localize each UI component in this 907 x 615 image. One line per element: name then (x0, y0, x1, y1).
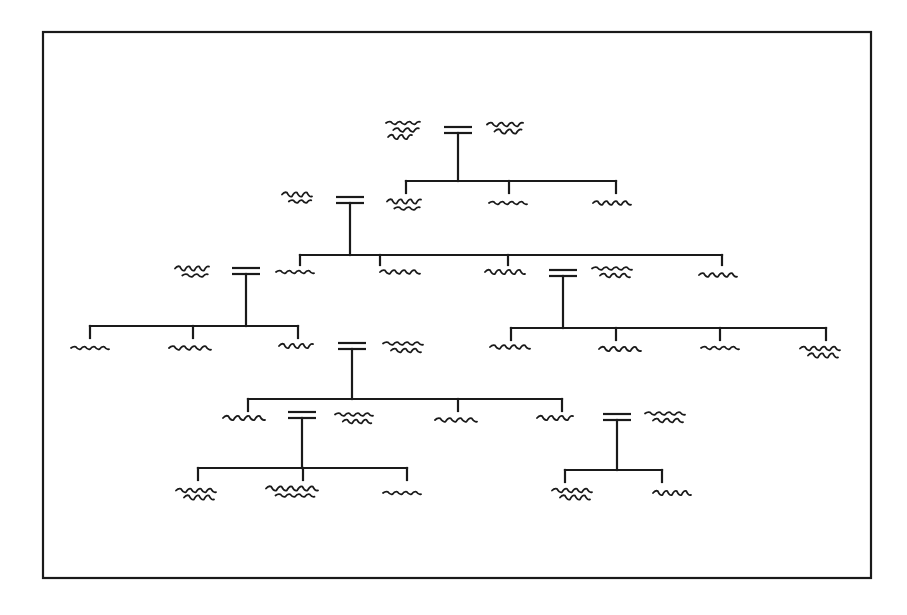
genealogy-diagram: illegible nameillegible nameillegible na… (0, 0, 907, 615)
person-name: illegible name (490, 345, 530, 349)
descent-line (511, 276, 826, 340)
person-name: illegible name (701, 347, 739, 350)
person-name: illegible name (485, 270, 525, 274)
marriage-symbol-icon (232, 268, 260, 274)
person-name: illegible name (383, 492, 421, 495)
person-name: illegible name (279, 344, 313, 348)
person-name: illegible name (699, 273, 737, 277)
person-name: illegible name (386, 122, 420, 140)
person-name: illegible name (489, 202, 527, 205)
descent-line (198, 418, 407, 480)
person-name: illegible name (169, 346, 211, 350)
person-name: illegible name (593, 201, 631, 205)
person-name: illegible name (435, 418, 477, 422)
person-name: illegible name (223, 416, 265, 420)
marriage-symbol-icon (338, 343, 366, 349)
marriage-symbol-icon (336, 197, 364, 203)
person-name: illegible name (176, 489, 216, 500)
person-name: illegible name (71, 347, 109, 350)
person-name: illegible name (592, 267, 632, 277)
person-name: illegible name (335, 413, 373, 423)
descent-line (300, 203, 722, 265)
person-name: illegible name (175, 266, 209, 277)
person-name: illegible name (487, 123, 523, 134)
marriage-symbol-icon (603, 414, 631, 420)
marriage-symbol-icon (444, 127, 472, 133)
person-name: illegible name (800, 347, 840, 358)
descent-line (248, 349, 562, 411)
person-name: illegible name (383, 342, 423, 352)
person-name: illegible name (282, 192, 312, 203)
person-labels: illegible nameillegible nameillegible na… (71, 122, 840, 500)
diagram-frame (43, 32, 871, 578)
descent-lines (90, 133, 826, 482)
marriage-symbol-icon (288, 412, 316, 418)
descent-line (565, 420, 662, 482)
person-name: illegible name (653, 491, 691, 495)
person-name: illegible name (599, 347, 641, 351)
person-name: illegible name (380, 270, 420, 274)
descent-line (90, 274, 298, 338)
person-name: illegible name (645, 412, 685, 422)
descent-line (406, 133, 616, 193)
person-name: illegible name (387, 199, 421, 210)
person-name: illegible name (537, 416, 573, 420)
person-name: illegible name (266, 486, 318, 497)
marriage-symbol-icon (549, 270, 577, 276)
person-name: illegible name (552, 489, 592, 500)
person-name: illegible name (276, 271, 314, 274)
